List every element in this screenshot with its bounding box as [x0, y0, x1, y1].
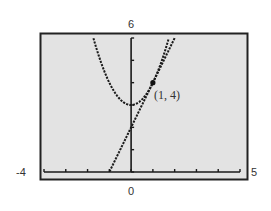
plot-frame [41, 34, 248, 180]
xmin-label: -4 [16, 167, 26, 178]
point-label: (1, 4) [154, 89, 180, 101]
ymax-label: 6 [128, 19, 134, 30]
graphing-calculator-plot [0, 0, 271, 211]
point-marker [150, 80, 155, 85]
xmax-label: 5 [251, 167, 257, 178]
origin-label: 0 [128, 186, 134, 197]
